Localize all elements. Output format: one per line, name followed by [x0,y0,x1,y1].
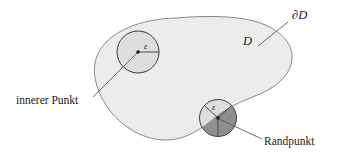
region-shape [94,16,292,140]
interior-point-caption: innerer Punkt [16,94,79,106]
boundary-label: ∂D [292,8,307,22]
interior-boundary-point-diagram: ε ε D ∂D innerer Punkt Randpunkt [0,0,340,153]
region-label: D [242,34,252,48]
boundary-point-caption: Randpunkt [264,135,315,148]
figure-container: ε ε D ∂D innerer Punkt Randpunkt [0,0,340,153]
